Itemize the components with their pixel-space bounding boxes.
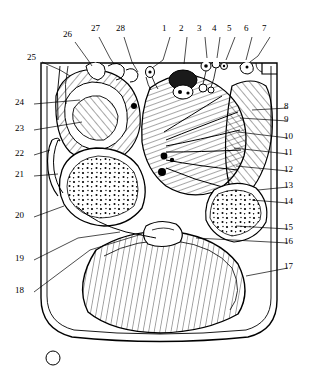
organ-top-dark-mass [169, 70, 197, 99]
callout-label-2: 2 [179, 24, 184, 33]
callout-label-1: 1 [162, 24, 167, 33]
callout-label-19: 19 [15, 254, 24, 263]
callout-label-27: 27 [91, 24, 100, 33]
organ-stippled-left [59, 148, 145, 226]
callout-label-15: 15 [284, 223, 293, 232]
footer-circle-mark [46, 351, 60, 365]
callout-label-5: 5 [227, 24, 232, 33]
organ-stippled-right [206, 183, 267, 242]
callout-label-6: 6 [244, 24, 249, 33]
callout-label-14: 14 [284, 197, 293, 206]
callout-label-24: 24 [15, 98, 24, 107]
callout-label-18: 18 [15, 286, 24, 295]
callout-label-20: 20 [15, 211, 24, 220]
callout-label-9: 9 [284, 115, 289, 124]
callout-label-11: 11 [284, 148, 293, 157]
callout-label-28: 28 [116, 24, 125, 33]
callout-label-26: 26 [63, 30, 72, 39]
callout-label-10: 10 [284, 132, 293, 141]
organ-midline-small [143, 221, 182, 246]
callout-label-25: 25 [27, 53, 36, 62]
callout-label-13: 13 [284, 181, 293, 190]
callout-label-17: 17 [284, 262, 293, 271]
callout-label-22: 22 [15, 149, 24, 158]
callout-label-21: 21 [15, 170, 24, 179]
callout-label-4: 4 [212, 24, 217, 33]
callout-label-7: 7 [262, 24, 267, 33]
callout-label-23: 23 [15, 124, 24, 133]
anatomy-diagram [0, 0, 317, 366]
callout-label-12: 12 [284, 165, 293, 174]
callout-label-16: 16 [284, 237, 293, 246]
callout-label-8: 8 [284, 102, 289, 111]
callout-label-3: 3 [197, 24, 202, 33]
